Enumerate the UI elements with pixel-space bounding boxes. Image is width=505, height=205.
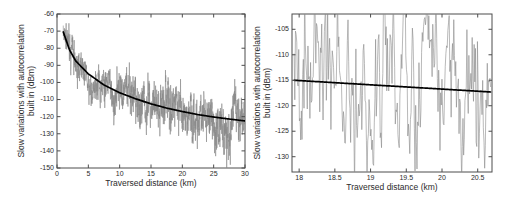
y-tick-label: -120	[275, 102, 289, 109]
x-tick-label: 25	[210, 170, 218, 177]
y-tick-label: -60	[44, 10, 54, 17]
y-tick-label: -100	[40, 78, 54, 85]
chart-panel-left: 051015202530-150-140-130-120-110-100-90-…	[0, 0, 252, 205]
chart-right: 1818.51919.52020.5-130-125-120-115-110-1…	[252, 0, 505, 205]
data-area	[63, 23, 245, 170]
y-axis-title: Slow variations with autocorrelationbuil…	[252, 26, 272, 160]
noise-trace-right	[294, 0, 490, 188]
y-tick-label: -105	[275, 25, 289, 32]
x-axis-title: Traversed distance (km)	[346, 182, 437, 192]
y-tick-label: -110	[276, 51, 290, 58]
x-axis-title: Traversed distance (km)	[105, 178, 196, 188]
x-tick-label: 20	[178, 170, 186, 177]
figure-container: 051015202530-150-140-130-120-110-100-90-…	[0, 0, 505, 205]
y-tick-label: -130	[40, 130, 54, 137]
x-tick-label: 0	[55, 170, 59, 177]
y-axis-title-line2: built in (dBm)	[26, 66, 36, 116]
y-tick-label: -140	[40, 147, 54, 154]
x-tick-label: 19	[367, 174, 375, 181]
chart-panel-right: 1818.51919.52020.5-130-125-120-115-110-1…	[252, 0, 505, 205]
y-axis-title-line1: Slow variations with autocorrelation	[252, 26, 262, 160]
y-tick-label: -130	[275, 153, 289, 160]
x-tick-label: 10	[116, 170, 124, 177]
noise-trace-left	[63, 23, 245, 170]
x-tick-label: 5	[86, 170, 90, 177]
y-tick-label: -115	[276, 76, 290, 83]
y-tick-label: -150	[40, 164, 54, 171]
y-axis-title-line2: built in (dBm)	[262, 68, 272, 118]
x-tick-label: 20	[438, 174, 446, 181]
y-axis-title-line1: Slow variations with autocorrelation	[16, 24, 26, 158]
y-tick-label: -90	[44, 61, 54, 68]
y-axis-title: Slow variations with autocorrelationbuil…	[16, 24, 36, 158]
x-tick-label: 19.5	[399, 174, 413, 181]
chart-left: 051015202530-150-140-130-120-110-100-90-…	[0, 0, 252, 205]
x-axis: 051015202530	[55, 14, 249, 177]
y-tick-label: -70	[44, 27, 54, 34]
x-tick-label: 18	[295, 174, 303, 181]
y-tick-label: -120	[40, 113, 54, 120]
data-area	[294, 0, 490, 188]
y-tick-label: -110	[41, 95, 55, 102]
x-tick-label: 15	[147, 170, 155, 177]
y-tick-label: -125	[275, 127, 289, 134]
y-tick-label: -80	[44, 44, 54, 51]
x-tick-label: 30	[241, 170, 249, 177]
x-tick-label: 18.5	[328, 174, 342, 181]
x-tick-label: 20.5	[471, 174, 485, 181]
